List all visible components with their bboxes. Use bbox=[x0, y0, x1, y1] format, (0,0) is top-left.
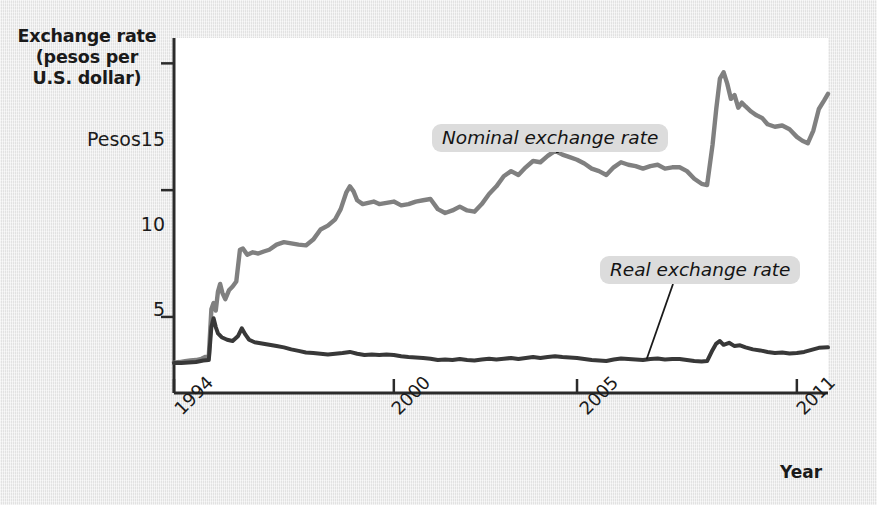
y-tick-label-10: 10 bbox=[10, 213, 165, 235]
y-tick-label-5: 5 bbox=[10, 298, 165, 320]
nominal-exchange-rate-label: Nominal exchange rate bbox=[432, 124, 668, 152]
exchange-rate-chart-figure: Exchange rate (pesos per U.S. dollar) Pe… bbox=[0, 0, 877, 505]
y-axis-title: Exchange rate (pesos per U.S. dollar) bbox=[4, 26, 170, 89]
x-axis-caption: Year bbox=[780, 462, 822, 482]
real-exchange-rate-label: Real exchange rate bbox=[600, 256, 800, 284]
y-tick-label-15: Pesos15 bbox=[10, 128, 165, 150]
y-axis-title-line1: Exchange rate bbox=[18, 26, 157, 46]
y-axis-title-line3: U.S. dollar) bbox=[33, 68, 142, 88]
y-axis-title-line2: (pesos per bbox=[36, 47, 138, 67]
